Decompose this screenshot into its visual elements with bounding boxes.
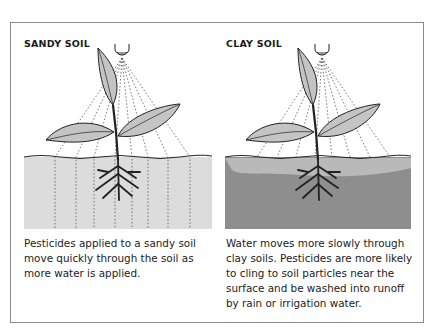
clay-soil-caption: Water moves more slowly through clay soi… <box>226 236 418 311</box>
spray-nozzle-icon <box>315 44 329 55</box>
sandy-soil-caption: Pesticides applied to a sandy soil move … <box>24 236 216 281</box>
sandy-soil-title: SANDY SOIL <box>24 38 90 49</box>
clay-soil-title: CLAY SOIL <box>226 38 282 49</box>
spray-nozzle-icon <box>115 44 129 55</box>
